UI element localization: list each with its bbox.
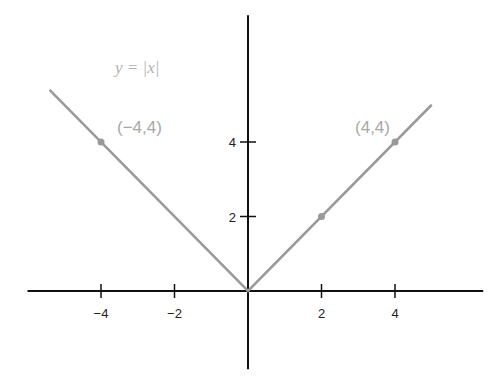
data-point <box>392 139 399 146</box>
ticks: −4−22424 <box>94 135 399 321</box>
x-tick-label: 4 <box>391 306 398 321</box>
function-label: y = |x| <box>113 58 159 77</box>
y-tick-label: 2 <box>229 210 236 225</box>
chart: −4−22424 (−4,4)(4,4) y = |x| <box>0 0 504 380</box>
x-tick-label: 2 <box>318 306 325 321</box>
data-point <box>98 139 105 146</box>
x-tick-label: −2 <box>167 306 182 321</box>
x-tick-label: −4 <box>94 306 109 321</box>
point-label: (4,4) <box>355 118 390 137</box>
point-label: (−4,4) <box>117 118 162 137</box>
data-point <box>318 213 325 220</box>
y-tick-label: 4 <box>229 135 236 150</box>
